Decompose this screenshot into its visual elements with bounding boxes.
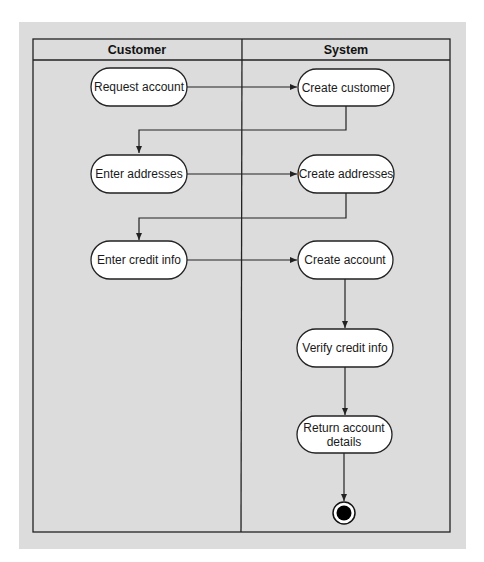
node-request-account: Request account bbox=[91, 68, 187, 106]
lane-header-system: System bbox=[324, 43, 368, 57]
svg-text:Create customer: Create customer bbox=[302, 81, 391, 95]
node-verify-credit-info: Verify credit info bbox=[297, 329, 393, 367]
svg-text:Request account: Request account bbox=[94, 80, 185, 94]
svg-text:Create account: Create account bbox=[304, 253, 386, 267]
node-create-account: Create account bbox=[298, 241, 393, 279]
svg-text:Enter credit info: Enter credit info bbox=[97, 253, 181, 267]
lane-header-customer: Customer bbox=[108, 43, 166, 57]
svg-text:Create addresses: Create addresses bbox=[299, 167, 394, 181]
svg-text:details: details bbox=[327, 435, 362, 449]
edge-create-customer-to-enter-addresses bbox=[139, 106, 346, 153]
edge-create-addresses-to-enter-credit bbox=[139, 193, 346, 240]
node-create-addresses: Create addresses bbox=[298, 155, 394, 193]
final-node-icon bbox=[333, 502, 355, 524]
svg-text:Enter addresses: Enter addresses bbox=[95, 167, 182, 181]
svg-text:Return account: Return account bbox=[303, 421, 385, 435]
node-create-customer: Create customer bbox=[298, 69, 394, 106]
node-enter-addresses: Enter addresses bbox=[91, 155, 187, 193]
swimlane-frame bbox=[33, 39, 450, 532]
node-enter-credit-info: Enter credit info bbox=[91, 241, 187, 279]
node-return-account-details: Return account details bbox=[297, 416, 392, 453]
svg-text:Verify credit info: Verify credit info bbox=[302, 341, 388, 355]
activity-diagram: Customer System Request account Create c… bbox=[0, 0, 484, 562]
